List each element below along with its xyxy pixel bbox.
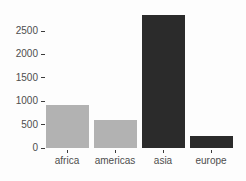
x-tick-mark: [67, 150, 68, 153]
y-tick-label: 0: [6, 143, 38, 153]
bar-africa: [46, 105, 89, 148]
bar-asia: [142, 15, 185, 148]
y-tick-mark: [41, 148, 45, 149]
x-axis-label-africa: africa: [55, 155, 79, 166]
y-tick-label: 500: [6, 120, 38, 130]
y-tick-label: 2000: [6, 49, 38, 59]
x-tick-mark: [115, 150, 116, 153]
y-tick-label: 1000: [6, 96, 38, 106]
y-tick-mark: [41, 124, 45, 125]
y-tick-mark: [41, 54, 45, 55]
x-axis-label-europe: europe: [195, 155, 226, 166]
y-tick-label: 2500: [6, 26, 38, 36]
x-axis-label-americas: americas: [95, 155, 136, 166]
y-tick-mark: [41, 101, 45, 102]
bar-chart: 05001000150020002500 africaamericasasiae…: [0, 0, 246, 181]
x-axis-label-asia: asia: [154, 155, 172, 166]
bar-europe: [190, 136, 233, 148]
y-tick-mark: [41, 77, 45, 78]
y-tick-mark: [41, 31, 45, 32]
x-tick-mark: [163, 150, 164, 153]
y-tick-label: 1500: [6, 73, 38, 83]
x-tick-mark: [211, 150, 212, 153]
bar-americas: [94, 120, 137, 148]
